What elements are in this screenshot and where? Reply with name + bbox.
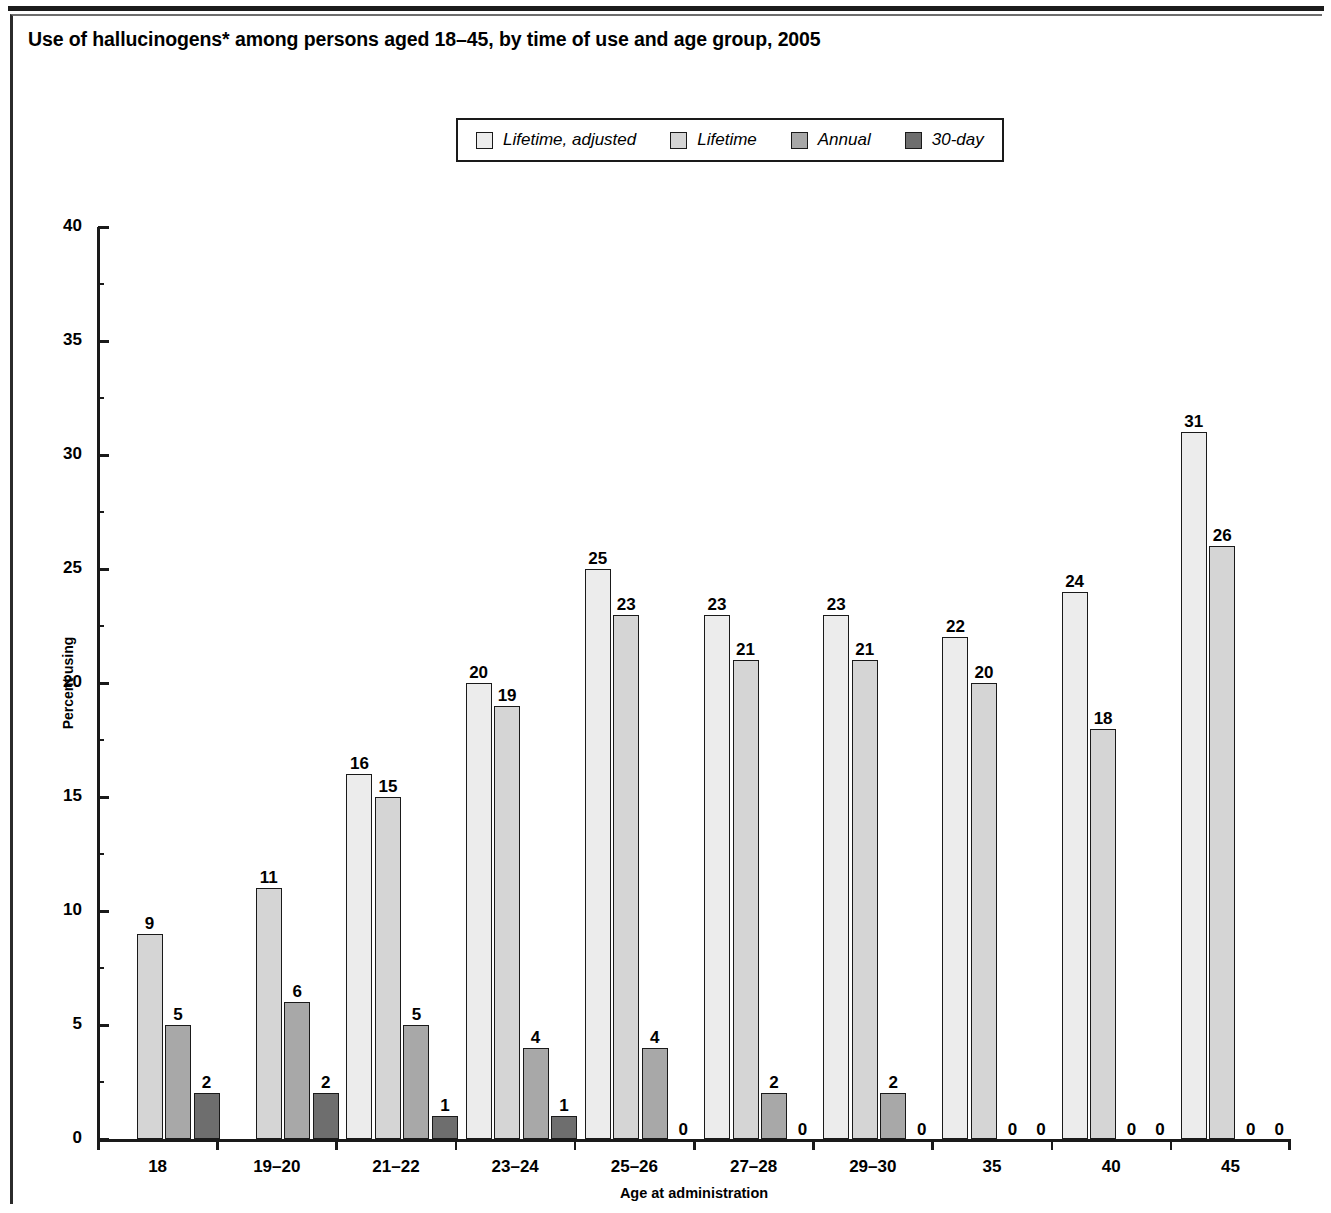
bar-value-label: 6 [292, 983, 301, 1000]
bar-value-label: 4 [650, 1029, 659, 1046]
bar[interactable]: 31 [1181, 432, 1207, 1139]
x-axis-tick [574, 1139, 577, 1150]
bar-value-label: 1 [559, 1097, 568, 1114]
bar[interactable]: 2 [194, 1093, 220, 1139]
bar-value-label: 0 [1246, 1121, 1255, 1138]
legend-entry[interactable]: 30-day [905, 130, 984, 150]
x-axis-tick-label: 45 [1171, 1157, 1290, 1177]
legend-swatch-icon [905, 132, 922, 149]
bar[interactable]: 2 [761, 1093, 787, 1139]
bar[interactable]: 23 [613, 615, 639, 1139]
bar[interactable]: 15 [375, 797, 401, 1139]
y-axis-tick-label: 40 [63, 216, 82, 236]
x-axis-tick [931, 1139, 934, 1150]
x-axis-tick-label: 18 [98, 1157, 217, 1177]
legend-label: Annual [818, 130, 871, 150]
chart-figure: Use of hallucinogens* among persons aged… [0, 0, 1331, 1213]
bar-value-label: 20 [469, 664, 488, 681]
bar-group: 31260045 [1171, 227, 1290, 1139]
bar[interactable]: 25 [585, 569, 611, 1139]
x-axis-tick-label: 29–30 [813, 1157, 932, 1177]
x-axis-tick [1170, 1139, 1173, 1150]
x-axis-tick [97, 1139, 100, 1150]
x-axis-tick-label: 40 [1052, 1157, 1171, 1177]
legend-label: Lifetime [697, 130, 757, 150]
plot-area: Percent using 4035302520151050 952181162… [98, 227, 1290, 1139]
legend-entry[interactable]: Lifetime [670, 130, 757, 150]
bar[interactable]: 24 [1062, 592, 1088, 1139]
legend-label: 30-day [932, 130, 984, 150]
bar-value-label: 1 [440, 1097, 449, 1114]
bar-value-label: 22 [946, 618, 965, 635]
bar-value-label: 15 [378, 778, 397, 795]
bar[interactable]: 22 [942, 637, 968, 1139]
bar-group: 25234025–26 [575, 227, 694, 1139]
bar[interactable]: 23 [823, 615, 849, 1139]
bar[interactable]: 5 [403, 1025, 429, 1139]
y-axis-tick-label: 15 [63, 786, 82, 806]
x-axis-tick [335, 1139, 338, 1150]
bar-value-label: 2 [888, 1074, 897, 1091]
bar[interactable]: 19 [494, 706, 520, 1139]
x-axis-tick [812, 1139, 815, 1150]
x-axis-tick-label: 27–28 [694, 1157, 813, 1177]
bar[interactable]: 9 [137, 934, 163, 1139]
y-axis-tick-label: 0 [73, 1128, 82, 1148]
bar-value-label: 20 [974, 664, 993, 681]
legend-entry[interactable]: Lifetime, adjusted [476, 130, 636, 150]
bar-value-label: 4 [531, 1029, 540, 1046]
bar[interactable]: 21 [733, 660, 759, 1139]
legend-swatch-icon [476, 132, 493, 149]
bar-value-label: 26 [1213, 527, 1232, 544]
bar[interactable]: 11 [256, 888, 282, 1139]
bar[interactable]: 16 [346, 774, 372, 1139]
x-axis-tick-label: 21–22 [336, 1157, 455, 1177]
bar-value-label: 19 [498, 687, 517, 704]
bar[interactable]: 2 [880, 1093, 906, 1139]
bar[interactable]: 4 [523, 1048, 549, 1139]
bar-value-label: 18 [1094, 710, 1113, 727]
y-axis-tick-label: 10 [63, 900, 82, 920]
bar[interactable]: 20 [466, 683, 492, 1139]
bar[interactable]: 23 [704, 615, 730, 1139]
bar[interactable]: 5 [165, 1025, 191, 1139]
x-axis-tick [1288, 1139, 1291, 1150]
bar-value-label: 0 [1008, 1121, 1017, 1138]
bar-value-label: 0 [1275, 1121, 1284, 1138]
legend-entry[interactable]: Annual [791, 130, 871, 150]
bar-value-label: 2 [202, 1074, 211, 1091]
legend-label: Lifetime, adjusted [503, 130, 636, 150]
bar-value-label: 25 [588, 550, 607, 567]
bar-value-label: 24 [1065, 573, 1084, 590]
bar[interactable]: 6 [284, 1002, 310, 1139]
bar-value-label: 5 [412, 1006, 421, 1023]
bar[interactable]: 2 [313, 1093, 339, 1139]
bar-value-label: 0 [1127, 1121, 1136, 1138]
bar-group: 116219–20 [217, 227, 336, 1139]
x-axis-tick-label: 35 [932, 1157, 1051, 1177]
bar-group: 23212029–30 [813, 227, 932, 1139]
bar[interactable]: 21 [852, 660, 878, 1139]
bar[interactable]: 4 [642, 1048, 668, 1139]
bar-value-label: 9 [145, 915, 154, 932]
bar[interactable]: 20 [971, 683, 997, 1139]
legend-swatch-icon [791, 132, 808, 149]
x-axis-tick [455, 1139, 458, 1150]
bar-value-label: 11 [260, 869, 278, 886]
y-axis-tick-label: 30 [63, 444, 82, 464]
bar[interactable]: 26 [1209, 546, 1235, 1139]
bar-value-label: 31 [1184, 413, 1203, 430]
bar-value-label: 0 [1155, 1121, 1164, 1138]
bar-value-label: 23 [617, 596, 636, 613]
bar-group: 16155121–22 [336, 227, 455, 1139]
bar[interactable]: 1 [551, 1116, 577, 1139]
bar[interactable]: 1 [432, 1116, 458, 1139]
x-axis-tick-label: 25–26 [575, 1157, 694, 1177]
bar[interactable]: 18 [1090, 729, 1116, 1139]
bar-value-label: 2 [769, 1074, 778, 1091]
legend-swatch-icon [670, 132, 687, 149]
bar-value-label: 21 [736, 641, 755, 658]
bar-value-label: 0 [917, 1121, 926, 1138]
bar-value-label: 2 [321, 1074, 330, 1091]
bar-group: 22200035 [932, 227, 1051, 1139]
